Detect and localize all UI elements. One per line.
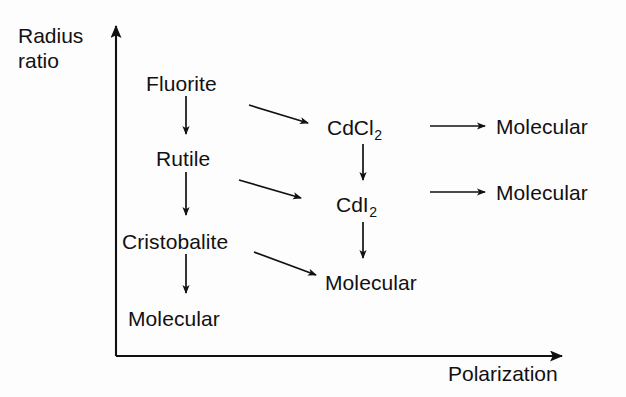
arrow-cristobalite-to-molecular-mid [254, 252, 316, 275]
node-cdcl2-subscript: 2 [374, 127, 382, 143]
arrow-rutile-to-cdi2 [239, 180, 301, 198]
arrow-fluorite-to-cdcl2 [249, 105, 308, 123]
node-cdi2-subscript: 2 [369, 204, 377, 220]
horizontal-arrows [430, 126, 485, 192]
y-axis-label: Radius ratio [18, 24, 83, 74]
x-axis-label: Polarization [448, 362, 558, 387]
node-cristobalite[interactable]: Cristobalite [122, 231, 228, 253]
node-molecular-bottom-right[interactable]: Molecular [496, 182, 588, 204]
diagonal-arrows [239, 105, 316, 275]
diagram-canvas: Radius ratio Polarization Fluorite Rutil… [0, 0, 626, 397]
node-molecular-top-right[interactable]: Molecular [496, 116, 588, 138]
node-cdcl2-base: CdCl [327, 116, 374, 139]
node-fluorite[interactable]: Fluorite [146, 73, 217, 95]
node-molecular-left[interactable]: Molecular [128, 308, 220, 330]
node-molecular-middle[interactable]: Molecular [325, 272, 417, 294]
node-cdi2-base: CdI [336, 193, 369, 216]
node-rutile[interactable]: Rutile [156, 148, 210, 170]
node-cdcl2[interactable]: CdCl2 [327, 116, 382, 140]
node-cdi2[interactable]: CdI2 [336, 193, 377, 217]
